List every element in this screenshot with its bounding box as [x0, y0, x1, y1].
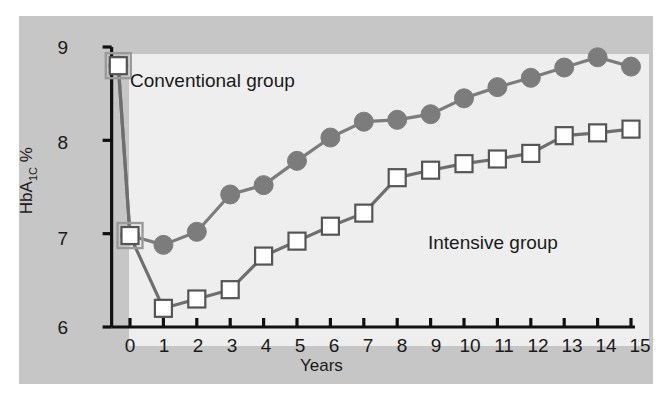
x-tick-label-14: 14	[593, 336, 619, 355]
x-tick-label-6: 6	[321, 336, 347, 355]
y-axis-title: HbA1C %	[17, 111, 38, 251]
data-point-conventional	[221, 185, 240, 204]
data-point-conventional	[521, 68, 540, 87]
series-label-intensive: Intensive group	[428, 232, 558, 254]
data-point-intensive	[489, 151, 506, 168]
data-point-conventional	[254, 176, 273, 195]
data-point-intensive	[110, 57, 127, 74]
data-point-conventional	[187, 222, 206, 241]
y-axis-title-text: HbA1C %	[17, 147, 36, 214]
y-tick-label-9: 9	[44, 38, 68, 57]
series-label-conventional: Conventional group	[130, 70, 295, 92]
data-point-conventional	[455, 89, 474, 108]
y-tick-label-7: 7	[44, 229, 68, 248]
data-point-intensive	[322, 218, 339, 235]
x-tick-label-15: 15	[627, 336, 653, 355]
x-tick-label-2: 2	[185, 336, 211, 355]
x-tick-label-4: 4	[253, 336, 279, 355]
x-tick-label-9: 9	[423, 336, 449, 355]
x-tick-label-5: 5	[287, 336, 313, 355]
data-point-conventional	[154, 235, 173, 254]
data-point-intensive	[389, 169, 406, 186]
data-point-conventional	[588, 48, 607, 67]
data-point-conventional	[622, 57, 641, 76]
x-tick-label-11: 11	[491, 336, 517, 355]
data-point-intensive	[456, 155, 473, 172]
data-point-conventional	[354, 112, 373, 131]
x-tick-label-8: 8	[389, 336, 415, 355]
data-point-intensive	[623, 121, 640, 138]
x-tick-label-12: 12	[525, 336, 551, 355]
x-tick-label-0: 0	[117, 336, 143, 355]
data-point-intensive	[222, 281, 239, 298]
x-axis-title: Years	[300, 356, 343, 376]
x-tick-label-13: 13	[559, 336, 585, 355]
data-point-intensive	[522, 145, 539, 162]
data-point-intensive	[122, 227, 139, 244]
data-point-intensive	[589, 124, 606, 141]
data-point-intensive	[355, 205, 372, 222]
data-point-intensive	[155, 300, 172, 317]
y-tick-label-8: 8	[44, 133, 68, 152]
x-tick-label-7: 7	[355, 336, 381, 355]
series-line-intensive	[118, 66, 631, 309]
data-point-conventional	[288, 151, 307, 170]
data-point-conventional	[421, 105, 440, 124]
data-point-conventional	[321, 128, 340, 147]
x-tick-label-3: 3	[219, 336, 245, 355]
data-point-intensive	[255, 248, 272, 265]
data-point-intensive	[188, 291, 205, 308]
data-point-intensive	[556, 127, 573, 144]
figure-root: 9 8 7 6 0 1 2 3 4 5 6 7 8 9 10 11 12 13 …	[0, 0, 670, 399]
data-point-conventional	[388, 110, 407, 129]
y-tick-label-6: 6	[44, 318, 68, 337]
x-tick-label-1: 1	[151, 336, 177, 355]
data-point-intensive	[289, 233, 306, 250]
data-point-conventional	[488, 78, 507, 97]
data-point-intensive	[422, 162, 439, 179]
data-point-conventional	[555, 58, 574, 77]
x-tick-label-10: 10	[457, 336, 483, 355]
